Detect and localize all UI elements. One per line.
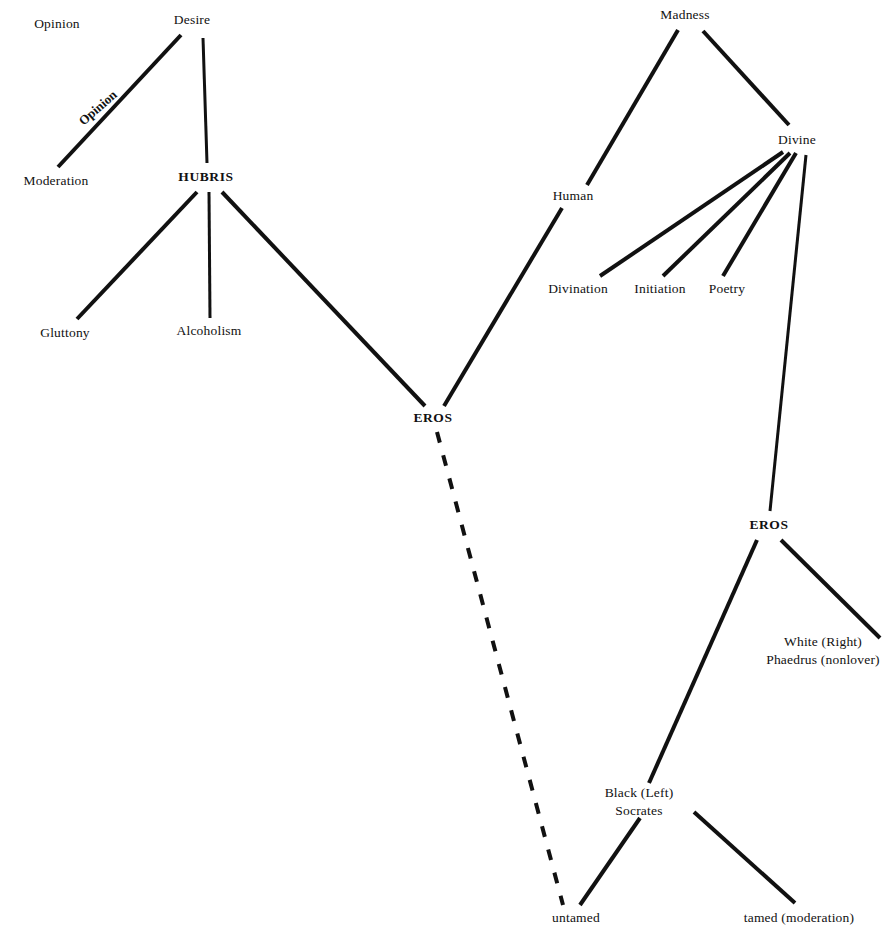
node-black_left: Black (Left)Socrates bbox=[605, 784, 674, 820]
eros-diagram: OpinionDesireModerationHUBRISGluttonyAlc… bbox=[0, 0, 896, 940]
node-alcoholism: Alcoholism bbox=[177, 322, 242, 339]
node-divine: Divine bbox=[778, 131, 816, 148]
edge-hubris-eros bbox=[222, 192, 425, 406]
node-eros_center: EROS bbox=[413, 409, 452, 426]
node-line: White (Right) bbox=[766, 633, 880, 651]
node-line: Socrates bbox=[605, 802, 674, 820]
edge-eros-untamed bbox=[437, 432, 563, 905]
node-gluttony: Gluttony bbox=[40, 324, 90, 341]
node-hubris: HUBRIS bbox=[178, 168, 233, 185]
edge-layer bbox=[0, 0, 896, 940]
edge-desire-moderation bbox=[58, 35, 181, 167]
edge-divine-divination bbox=[600, 152, 783, 276]
edge-madness-human bbox=[587, 30, 678, 185]
node-initiation: Initiation bbox=[634, 280, 686, 297]
node-human: Human bbox=[553, 187, 594, 204]
edge-eros-black bbox=[649, 540, 757, 783]
node-opinion: Opinion bbox=[34, 15, 80, 32]
edge-hubris-alcoholism bbox=[209, 192, 210, 318]
node-tamed: tamed (moderation) bbox=[744, 909, 854, 926]
node-madness: Madness bbox=[660, 6, 709, 23]
node-untamed: untamed bbox=[552, 909, 600, 926]
node-desire: Desire bbox=[174, 11, 210, 28]
edge-desire-hubris bbox=[203, 38, 207, 163]
node-poetry: Poetry bbox=[709, 280, 745, 297]
edge-divine-initiation bbox=[663, 153, 790, 276]
node-divination: Divination bbox=[548, 280, 608, 297]
edge-divine-poetry bbox=[723, 153, 796, 276]
node-moderation: Moderation bbox=[24, 172, 89, 189]
edge-human-eros bbox=[444, 208, 562, 406]
node-eros_lower: EROS bbox=[749, 516, 788, 533]
edge-madness-divine bbox=[703, 31, 789, 125]
node-line: Black (Left) bbox=[605, 784, 674, 802]
edge-divine-eros bbox=[770, 155, 806, 511]
node-white_right: White (Right)Phaedrus (nonlover) bbox=[766, 633, 880, 669]
node-line: Phaedrus (nonlover) bbox=[766, 651, 880, 669]
edge-black-tamed bbox=[694, 812, 795, 903]
edge-black-untamed bbox=[580, 818, 640, 905]
edge-hubris-gluttony bbox=[77, 192, 197, 319]
edge-eros-white bbox=[781, 540, 880, 638]
